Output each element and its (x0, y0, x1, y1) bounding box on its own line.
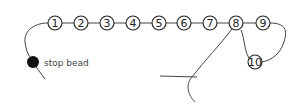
bead-4: 4 (126, 16, 140, 30)
stop-bead: stop bead (27, 56, 89, 68)
stop-bead-label: stop bead (44, 58, 89, 68)
bead-5: 5 (152, 16, 166, 30)
thread-lead (25, 23, 48, 58)
bead-number: 8 (233, 17, 240, 30)
bead-number: 1 (52, 17, 59, 30)
thread-exit (188, 29, 232, 102)
bead-diagram: stop bead 12345678910 (0, 0, 292, 111)
bead-6: 6 (177, 16, 191, 30)
bead-number: 4 (130, 17, 137, 30)
bead-1: 1 (48, 16, 62, 30)
bead-3: 3 (100, 16, 114, 30)
bead-number: 6 (181, 17, 188, 30)
bead-8: 8 (229, 16, 243, 30)
bead-number: 10 (248, 56, 262, 69)
bead-number: 9 (260, 17, 267, 30)
bead-7: 7 (203, 16, 217, 30)
thread-loop-10-8 (241, 30, 249, 58)
needle (160, 76, 197, 77)
bead-9: 9 (256, 16, 270, 30)
bead-number: 5 (156, 17, 163, 30)
bead-2: 2 (74, 16, 88, 30)
bead-number: 2 (78, 17, 85, 30)
bead-10: 10 (248, 55, 262, 69)
bead-number: 7 (207, 17, 214, 30)
thread-tail (36, 67, 45, 79)
bead-number: 3 (104, 17, 111, 30)
stop-bead-circle (27, 56, 39, 68)
